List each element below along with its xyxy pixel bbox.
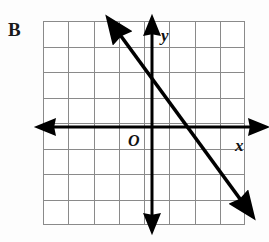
x-axis-label: x — [234, 136, 244, 155]
origin-label: O — [128, 132, 140, 149]
y-axis-label: y — [159, 26, 169, 45]
coordinate-graph: y x O — [0, 0, 269, 242]
graph-figure: B — [0, 0, 269, 242]
